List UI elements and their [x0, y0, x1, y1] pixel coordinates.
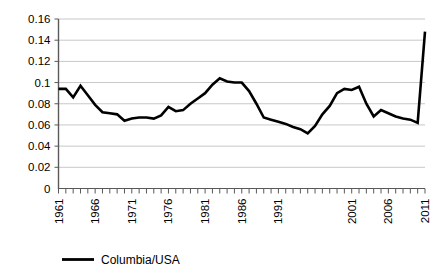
chart-container: 00.020.040.060.080.10.120.140.16 1961196… [0, 0, 447, 278]
y-tick-label-0: 0 [44, 183, 50, 195]
x-tick-label-1971: 1971 [126, 199, 138, 225]
y-tick-label-0.16: 0.16 [28, 13, 50, 25]
y-tick-label-0.06: 0.06 [28, 119, 50, 131]
x-tick-label-1991: 1991 [272, 199, 284, 225]
x-tick-label-1966: 1966 [89, 199, 101, 225]
x-tick-label-1981: 1981 [199, 199, 211, 225]
x-tick-label-2006: 2006 [382, 199, 394, 225]
y-tick-label-0.1: 0.1 [35, 77, 51, 89]
x-tick-label-2011: 2011 [419, 199, 431, 224]
y-tick-label-0.04: 0.04 [28, 140, 51, 152]
x-tick-label-1976: 1976 [162, 199, 174, 225]
chart-background [0, 0, 447, 278]
y-tick-label-0.08: 0.08 [28, 98, 50, 110]
y-axis-tick-labels: 00.020.040.060.080.10.120.140.16 [28, 13, 51, 195]
x-tick-label-2001: 2001 [346, 199, 358, 225]
legend-label-columbia-usa: Columbia/USA [101, 253, 180, 267]
y-tick-label-0.02: 0.02 [28, 161, 50, 173]
y-tick-label-0.14: 0.14 [28, 34, 51, 46]
x-tick-label-1961: 1961 [53, 199, 65, 225]
x-tick-label-1986: 1986 [236, 199, 248, 225]
line-chart: 00.020.040.060.080.10.120.140.16 1961196… [0, 0, 447, 278]
y-tick-label-0.12: 0.12 [28, 55, 50, 67]
